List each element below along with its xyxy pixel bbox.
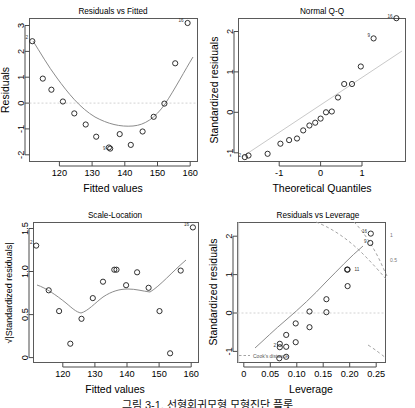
x-tick-label: 160 [184,369,199,379]
y-tick-label: 3 [16,23,26,28]
x-tick-label: 0.20 [341,369,359,379]
point-label: 9 [103,146,106,151]
plot-frame [238,223,386,363]
panel-residuals-vs-leverage: Residuals vs Leverage 2 1 0 -1 Standardi… [208,200,415,408]
y-tick-label: -1 [16,125,26,133]
x-axis: 0 0.05 0.10 0.15 0.20 0.25 [241,363,385,380]
y-tick-label: 1 [224,272,234,277]
panel-title: Scale-Location [88,211,143,220]
panel-title: Residuals vs Leverage [277,211,360,220]
x-axis: 120 130 140 150 160 [55,363,199,380]
y-tick-label: 2 [16,49,26,54]
plot-frame [239,19,406,162]
x-axis-label: Fitted values [83,182,143,194]
point-label: 2 [25,35,28,40]
point-label: 16 [387,14,393,19]
plot-frame [34,223,199,363]
panel-title: Normal Q-Q [300,7,344,16]
x-tick-label: 1 [359,168,364,178]
qq-reference-line [242,51,402,157]
y-tick-label: -1 [224,347,234,355]
lowess-curve [255,246,363,348]
y-axis-label: √|Standardized residuals| [4,242,14,343]
y-axis: 2 1 0 -1 [225,29,238,157]
x-tick-label: 140 [117,168,132,178]
panel-normal-qq: Normal Q-Q 2 1 0 -1 Standardized residua… [208,0,415,204]
panel-residuals-vs-fitted: Residuals vs Fitted 3 2 1 0 -1 -2 Residu… [0,0,208,204]
data-points [30,20,191,151]
point-label: 2 [238,153,241,158]
diagnostic-plot-figure: Residuals vs Fitted 3 2 1 0 -1 -2 Residu… [0,0,415,408]
y-tick-label: -2 [16,151,26,159]
y-tick-label: 0 [16,101,26,106]
x-tick-label: 0 [241,369,246,379]
y-tick-label: -1 [225,149,235,157]
y-axis-label: Residuals [0,67,11,113]
x-tick-label: 0.10 [288,369,306,379]
x-axis-label: Theoretical Quantiles [272,182,371,194]
x-tick-label: 0.15 [314,369,332,379]
y-tick-label: 0.5 [20,308,30,321]
y-tick-label: 2 [224,234,234,239]
cooks-distance-legend-label: Cook's distance [253,353,288,359]
y-tick-label: 0 [225,110,235,115]
figure-caption: 그림 3-1. 선형회귀모형 모형진단 플롯 [0,399,415,408]
point-label: 9 [367,33,370,38]
y-axis: 2 1 0 -1 [224,234,237,356]
panel-scale-location: Scale-Location 1.5 1.0 0.5 0 √|Standardi… [0,200,208,408]
point-label: 16 [362,229,368,234]
x-axis: 120 130 140 150 160 [52,162,198,179]
data-points [242,16,399,160]
x-tick-label: 120 [55,369,70,379]
x-tick-label: -1 [275,168,283,178]
x-tick-label: 0 [318,168,323,178]
lowess-curve [37,260,186,313]
y-tick-label: 1.5 [20,222,30,235]
point-labels: 2 16 [30,222,189,245]
x-tick-label: 130 [87,369,102,379]
y-axis: 3 2 1 0 -1 -2 [16,23,29,159]
x-tick-label: 0.25 [367,369,385,379]
data-points [34,225,196,356]
x-tick-label: 140 [119,369,134,379]
y-axis-label: Standardized residuals [208,37,220,144]
point-label: 16 [184,222,190,227]
x-tick-label: 120 [52,168,67,178]
point-label: 11 [355,267,360,272]
x-axis-label: Leverage [289,383,333,395]
x-axis-label: Fitted values [85,383,145,395]
x-tick-label: 160 [183,168,198,178]
point-label: 2 [30,240,33,245]
plot-frame [30,19,198,162]
x-axis: -1 0 1 [275,162,364,179]
point-label: 16 [178,18,184,23]
cooks-contour-label: 1 [390,232,393,238]
point-labels: 2 9 16 [25,18,183,151]
x-tick-label: 150 [151,369,166,379]
x-tick-label: 0.05 [261,369,279,379]
y-tick-label: 1 [16,75,26,80]
cooks-contour-1 [316,222,386,279]
y-axis-label: Standardized residuals [208,239,219,346]
y-tick-label: 1.0 [20,265,30,278]
y-tick-label: 1 [225,69,235,74]
cooks-contour-label: 0.5 [390,257,397,263]
point-label: 2 [273,343,276,348]
x-tick-label: 150 [150,168,165,178]
cooks-contour-lower [368,345,386,358]
point-labels: 2 9 16 [238,14,392,159]
cooks-distance-legend: Cook's distance [239,353,288,359]
y-tick-label: 0 [224,310,234,315]
panel-title: Residuals vs Fitted [78,7,148,16]
lowess-curve [33,41,193,126]
y-tick-label: 2 [225,29,235,34]
y-tick-label: 0 [20,355,30,360]
point-label: 9 [364,239,367,244]
x-tick-label: 130 [84,168,99,178]
